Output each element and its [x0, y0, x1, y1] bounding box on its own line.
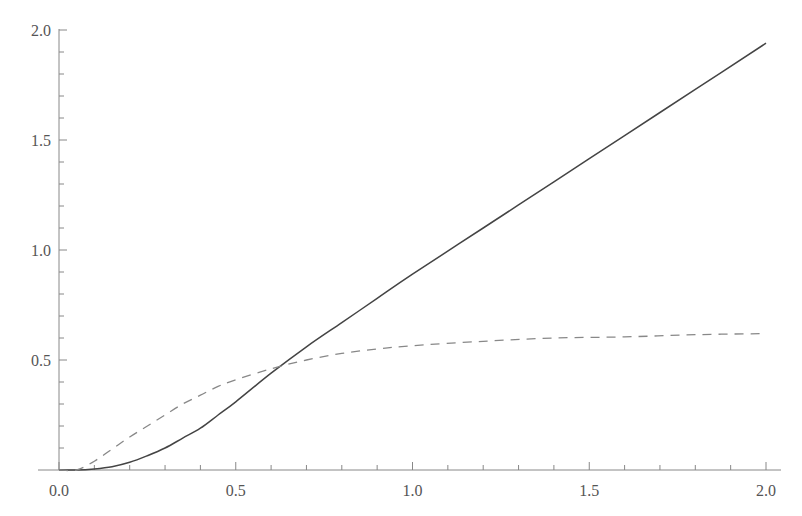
chart: 0.00.51.01.52.00.51.01.52.0: [0, 0, 802, 516]
x-tick-label: 1.0: [403, 482, 423, 499]
x-tick-label: 0.0: [49, 482, 69, 499]
axes: [38, 29, 781, 470]
series-group: [59, 43, 766, 470]
y-tick-label: 2.0: [31, 22, 51, 39]
ticks: [59, 30, 766, 470]
x-tick-label: 0.5: [226, 482, 246, 499]
solid-curve: [59, 43, 766, 470]
y-tick-label: 1.0: [31, 242, 51, 259]
tick-labels: 0.00.51.01.52.00.51.01.52.0: [31, 22, 776, 499]
y-tick-label: 0.5: [31, 352, 51, 369]
y-tick-label: 1.5: [31, 132, 51, 149]
dashed-curve: [59, 334, 766, 471]
plot-area: 0.00.51.01.52.00.51.01.52.0: [0, 0, 802, 516]
x-tick-label: 2.0: [756, 482, 776, 499]
x-tick-label: 1.5: [579, 482, 599, 499]
